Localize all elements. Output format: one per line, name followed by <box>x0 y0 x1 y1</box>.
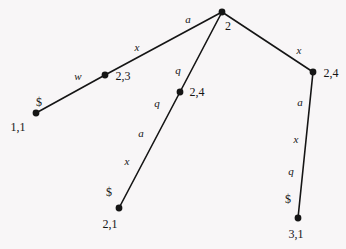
graph-edge <box>105 12 222 75</box>
graph-node <box>295 215 302 222</box>
graph-edge <box>222 12 313 72</box>
diagram-canvas: 1,1$2,322,42,42,1$3,1$wxaqqaxxaxq <box>0 0 346 249</box>
graph-node <box>310 69 317 76</box>
graph-node <box>33 110 40 117</box>
graph-edge <box>298 72 313 218</box>
edge-layer <box>36 12 313 218</box>
graph-svg <box>0 0 346 249</box>
graph-node <box>116 205 123 212</box>
graph-edge <box>36 75 105 113</box>
graph-node <box>219 9 226 16</box>
graph-node <box>177 89 184 96</box>
node-layer <box>33 9 317 222</box>
graph-edge <box>119 92 180 208</box>
graph-node <box>102 72 109 79</box>
